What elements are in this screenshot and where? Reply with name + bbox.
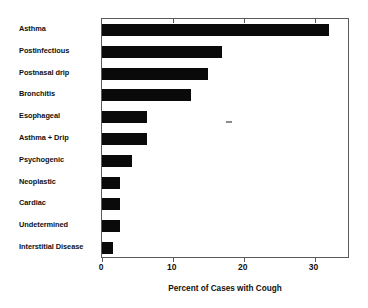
category-label: Postnasal drip <box>19 69 103 77</box>
bar <box>102 242 113 254</box>
bar <box>102 89 191 101</box>
category-label: Postinfectious <box>19 47 103 55</box>
category-label: Psychogenic <box>19 156 103 164</box>
category-label: Neoplastic <box>19 178 103 186</box>
bar <box>102 46 222 58</box>
category-axis-labels: AsthmaPostinfectiousPostnasal dripBronch… <box>19 18 101 258</box>
plot-frame <box>101 18 349 258</box>
bar <box>102 155 132 167</box>
x-tick-top <box>315 19 316 23</box>
category-label: Asthma <box>19 25 103 33</box>
scan-artifact-speck <box>226 121 232 123</box>
bar <box>102 111 147 123</box>
category-label: Asthma + Drip <box>19 134 103 142</box>
x-tick-label: 30 <box>309 262 318 272</box>
bar <box>102 24 329 36</box>
category-label: Esophageal <box>19 112 103 120</box>
x-tick-label: 0 <box>99 262 104 272</box>
bar <box>102 198 120 210</box>
plot-area <box>102 19 348 257</box>
category-label: Interstitial Disease <box>19 243 103 251</box>
bar-chart-figure: AsthmaPostinfectiousPostnasal dripBronch… <box>0 0 368 308</box>
x-tick-top <box>244 19 245 23</box>
bar <box>102 220 120 232</box>
category-label: Bronchitis <box>19 90 103 98</box>
category-label: Cardiac <box>19 199 103 207</box>
bar <box>102 133 147 145</box>
x-tick-label: 10 <box>167 262 176 272</box>
bar <box>102 68 208 80</box>
x-axis-title: Percent of Cases with Cough <box>101 284 349 293</box>
category-label: Undetermined <box>19 221 103 229</box>
x-tick-top <box>173 19 174 23</box>
bar <box>102 177 120 189</box>
x-tick-label: 20 <box>238 262 247 272</box>
